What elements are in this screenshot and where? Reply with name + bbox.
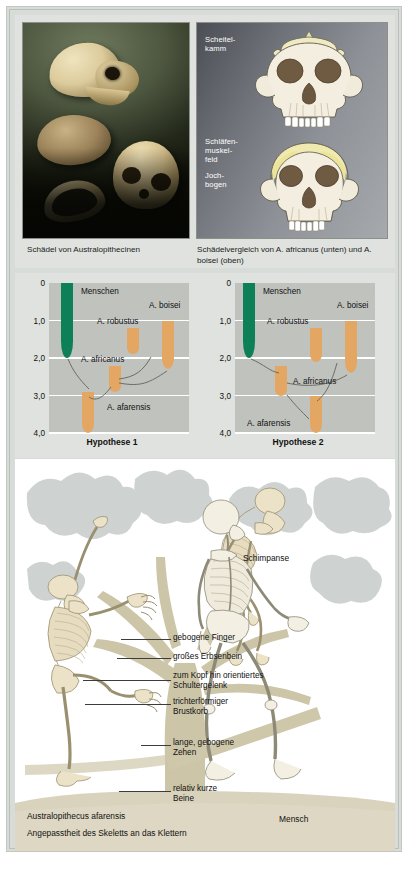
orbit-right [315, 59, 341, 83]
taxon-label: A. afarensis [107, 403, 150, 412]
y-tick-label: 3,0 [220, 391, 231, 400]
annotation-gebogene-finger: gebogene Finger [173, 633, 235, 643]
annotation-grosses-erbsenbein: großes Erbsenbein [173, 652, 242, 662]
leader-line-beine [119, 791, 171, 792]
skeleton-comparison-panel: gebogene Finger großes Erbsenbein zum Ko… [15, 459, 395, 851]
annotation-zehen: lange, gebogene Zehen [173, 738, 234, 759]
skull-photograph [23, 23, 189, 238]
label-scheitelkamm: Scheitel- kamm [205, 35, 235, 53]
orbit-left [280, 166, 303, 187]
human-ribcage [204, 554, 253, 614]
label-schlaefenmuskelfeld: Schläfen- muskel- feld [205, 137, 238, 165]
skull-illustration-boisei [245, 29, 373, 133]
taxon-label: A. africanus [293, 377, 336, 386]
annotation-beine: relativ kurze Beine [173, 784, 217, 805]
face-fill [276, 152, 344, 221]
annotation-schultergelenk: zum Kopf hin orientiertes Schultergelenk [173, 671, 264, 692]
leader-line-finger [121, 639, 171, 640]
y-axis-1: 01,02,03,04,0 [19, 277, 49, 439]
y-tick-label: 2,0 [34, 354, 45, 363]
y-axis-2: 01,02,03,04,0 [205, 277, 235, 439]
chart-hypothese-2: 01,02,03,04,0 Hypothese 2 MenschenA. rob… [205, 277, 391, 455]
caption-skull-comparison: Schädelvergleich von A. africanus (unten… [197, 245, 393, 266]
human-patella-front [265, 700, 277, 710]
taxon-label: A. robustus [97, 317, 138, 326]
hypothesis-charts-panel: 01,02,03,04,0 Hypothese 1 MenschenA. rob… [15, 273, 395, 458]
label-schimpanse: Schimpanse [243, 553, 289, 563]
label-species: Australopithecus afarensis [27, 811, 125, 821]
y-tick-label: 0 [40, 279, 45, 288]
taxon-label: A. boisei [149, 301, 180, 310]
y-tick-label: 2,0 [220, 354, 231, 363]
label-subtitle: Angepasstheit des Skeletts an das Klette… [27, 828, 187, 838]
y-tick-label: 1,0 [34, 316, 45, 325]
chart-hypothese-1: 01,02,03,04,0 Hypothese 1 MenschenA. rob… [19, 277, 205, 455]
leader-line-schulter [83, 680, 171, 681]
y-tick-label: 3,0 [34, 391, 45, 400]
taxon-label: Menschen [81, 287, 119, 296]
cranium-outline [267, 43, 351, 117]
orbit-left [277, 59, 303, 83]
tooth-row [289, 221, 325, 231]
taxon-label: A. africanus [81, 355, 124, 364]
caption-photograph: Schädel von Australopithecinen [27, 245, 191, 256]
annotation-brustkorb: trichterförmiger Brustkorb [173, 697, 228, 718]
skull-illustration-africanus [245, 131, 373, 235]
chimp-cranium [255, 488, 285, 514]
figure-page: Scheitel- kamm Schläfen- muskel- feld Jo… [0, 0, 408, 873]
y-tick-label: 0 [226, 279, 231, 288]
label-mensch: Mensch [279, 814, 308, 824]
label-jochbogen: Joch- bogen [205, 171, 227, 189]
orbit-right [316, 166, 339, 187]
skull-comparison-diagram: Scheitel- kamm Schläfen- muskel- feld Jo… [197, 23, 387, 238]
tooth-row [285, 117, 330, 127]
taxon-label: Menschen [263, 287, 301, 296]
chart-title-2: Hypothese 2 [205, 437, 391, 447]
taxon-label: A. afarensis [247, 419, 290, 428]
leader-line-zehen [141, 745, 171, 746]
leader-line-brustkorb [85, 704, 171, 705]
photo-foreground-shadow [23, 148, 189, 238]
leader-line-erbsenbein [117, 658, 171, 659]
taxon-label: A. boisei [337, 301, 368, 310]
chart-title-1: Hypothese 1 [19, 437, 205, 447]
taxon-label: A. robustus [267, 317, 308, 326]
y-tick-label: 1,0 [220, 316, 231, 325]
afarensis-foot-raised [135, 689, 153, 703]
outer-frame: Scheitel- kamm Schläfen- muskel- feld Jo… [6, 6, 402, 852]
top-panel: Scheitel- kamm Schläfen- muskel- feld Jo… [15, 15, 395, 268]
